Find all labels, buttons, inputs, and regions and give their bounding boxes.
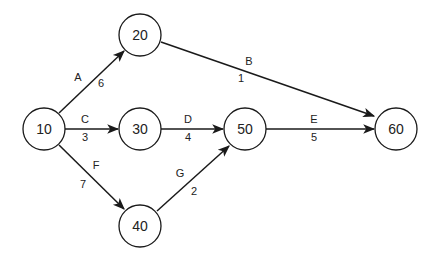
edge-e-duration: 5: [311, 131, 317, 143]
node-30-label: 30: [132, 121, 148, 137]
edge-a: A 6: [59, 51, 124, 113]
node-50: 50: [224, 108, 266, 150]
edge-e: E 5: [266, 113, 374, 143]
edge-e-activity: E: [310, 113, 317, 125]
node-40: 40: [119, 205, 161, 247]
edge-f: F 7: [59, 145, 124, 209]
edge-c-activity: C: [81, 113, 89, 125]
edge-d-duration: 4: [185, 131, 191, 143]
node-40-label: 40: [132, 218, 148, 234]
edge-b-activity: B: [245, 55, 252, 67]
edge-g: G 2: [157, 146, 229, 211]
edge-a-duration: 6: [98, 77, 104, 89]
node-50-label: 50: [237, 121, 253, 137]
edge-d: D 4: [161, 113, 223, 143]
edge-f-activity: F: [93, 159, 100, 171]
node-60-label: 60: [388, 121, 404, 137]
edge-g-activity: G: [176, 167, 185, 179]
edge-b: B 1: [161, 42, 374, 116]
network-diagram: A 6 B 1 C 3 D 4 E 5 F 7 G 2 10 20: [0, 0, 439, 263]
edge-d-activity: D: [184, 113, 192, 125]
edge-b-duration: 1: [238, 72, 244, 84]
node-10: 10: [23, 108, 65, 150]
node-10-label: 10: [36, 121, 52, 137]
edge-f-duration: 7: [80, 178, 86, 190]
edge-g-duration: 2: [191, 185, 197, 197]
node-20: 20: [119, 14, 161, 56]
node-60: 60: [375, 108, 417, 150]
node-20-label: 20: [132, 27, 148, 43]
edge-c-duration: 3: [82, 131, 88, 143]
edge-c: C 3: [65, 113, 118, 143]
node-30: 30: [119, 108, 161, 150]
edge-a-activity: A: [74, 71, 82, 83]
